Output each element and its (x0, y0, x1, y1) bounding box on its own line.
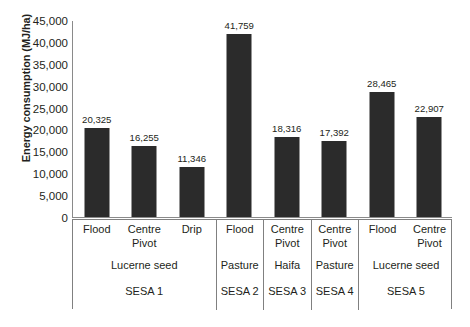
irrigation-method-cell: Drip (168, 220, 216, 256)
bar[interactable] (369, 92, 394, 217)
y-tick-label: 30,000 (28, 81, 68, 93)
y-tick-label: 40,000 (28, 37, 68, 49)
irrigation-method-cell: Centre Pivot (264, 220, 311, 256)
bar-slot: 11,346 (168, 20, 216, 217)
bar-slot: 22,907 (406, 20, 454, 217)
sesa-group-column: Centre Pivot Pasture SESA 4 (311, 220, 359, 310)
irrigation-method-row: Centre Pivot (264, 220, 311, 256)
bar[interactable] (132, 146, 157, 217)
bar[interactable] (84, 128, 109, 217)
y-tick-label: 0 (28, 212, 68, 224)
irrigation-method-cell: Centre Pivot (406, 220, 453, 256)
bar-slot: 20,325 (73, 20, 121, 217)
bar-value-label: 28,465 (367, 79, 396, 89)
sesa-label: SESA 4 (312, 285, 359, 298)
bar[interactable] (179, 167, 204, 217)
crop-label: Pasture (217, 259, 264, 272)
bar-value-label: 16,255 (130, 133, 159, 143)
sesa-label: SESA 3 (264, 285, 311, 298)
irrigation-method-row: Flood Centre Pivot Drip (73, 220, 216, 256)
bar[interactable] (274, 137, 299, 217)
crop-label: Lucerne seed (359, 259, 453, 272)
sesa-group-column: Flood Pasture SESA 2 (216, 220, 264, 310)
sesa-group-column: Flood Centre Pivot Lucerne seed SESA 5 (358, 220, 453, 310)
y-tick-label: 45,000 (28, 15, 68, 27)
bar-value-label: 18,316 (272, 124, 301, 134)
crop-label: Pasture (312, 259, 359, 272)
irrigation-method-cell: Centre Pivot (312, 220, 359, 256)
bar-slot: 16,255 (121, 20, 169, 217)
bar[interactable] (227, 34, 252, 217)
y-tick-label: 5,000 (28, 190, 68, 202)
bar-value-label: 11,346 (177, 154, 206, 164)
sesa-group-column: Centre Pivot Haifa SESA 3 (263, 220, 311, 310)
sesa-label: SESA 2 (217, 285, 264, 298)
bar-slot: 41,759 (216, 20, 264, 217)
irrigation-method-cell: Flood (217, 220, 264, 256)
y-tick-label: 25,000 (28, 103, 68, 115)
bar-value-label: 20,325 (82, 115, 111, 125)
y-tick-label: 20,000 (28, 124, 68, 136)
crop-label: Haifa (264, 259, 311, 272)
y-tick-label: 15,000 (28, 146, 68, 158)
irrigation-method-row: Flood Centre Pivot (359, 220, 453, 256)
irrigation-method-row: Centre Pivot (312, 220, 359, 256)
irrigation-method-cell: Flood (73, 220, 121, 256)
sesa-label: SESA 5 (359, 285, 453, 298)
category-table: Flood Centre Pivot Drip Lucerne seed SES… (72, 219, 452, 309)
irrigation-method-cell: Flood (359, 220, 406, 256)
y-tick-label: 35,000 (28, 59, 68, 71)
energy-consumption-bar-chart: Energy consumption (MJ/ha) 45,000 40,000… (0, 0, 470, 327)
bar-slot: 17,392 (311, 20, 359, 217)
bar[interactable] (322, 141, 347, 217)
bar-slot: 18,316 (263, 20, 311, 217)
bar-value-label: 22,907 (415, 104, 444, 114)
irrigation-method-cell: Centre Pivot (121, 220, 169, 256)
irrigation-method-row: Flood (217, 220, 264, 256)
sesa-group-column: Flood Centre Pivot Drip Lucerne seed SES… (73, 220, 216, 310)
bar-value-label: 41,759 (225, 21, 254, 31)
sesa-label: SESA 1 (73, 285, 216, 298)
plot-area: 20,325 16,255 11,346 41,759 18,316 17,39… (72, 21, 452, 218)
y-tick-label: 10,000 (28, 168, 68, 180)
bar-slot: 28,465 (358, 20, 406, 217)
crop-label: Lucerne seed (73, 259, 216, 272)
bar[interactable] (417, 117, 442, 217)
y-axis-tick-labels: 45,000 40,000 35,000 30,000 25,000 20,00… (28, 0, 68, 327)
bar-value-label: 17,392 (320, 128, 349, 138)
